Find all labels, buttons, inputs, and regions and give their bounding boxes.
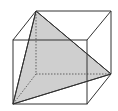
shaded-triangle [13,11,111,104]
cube-diagram [0,0,118,111]
